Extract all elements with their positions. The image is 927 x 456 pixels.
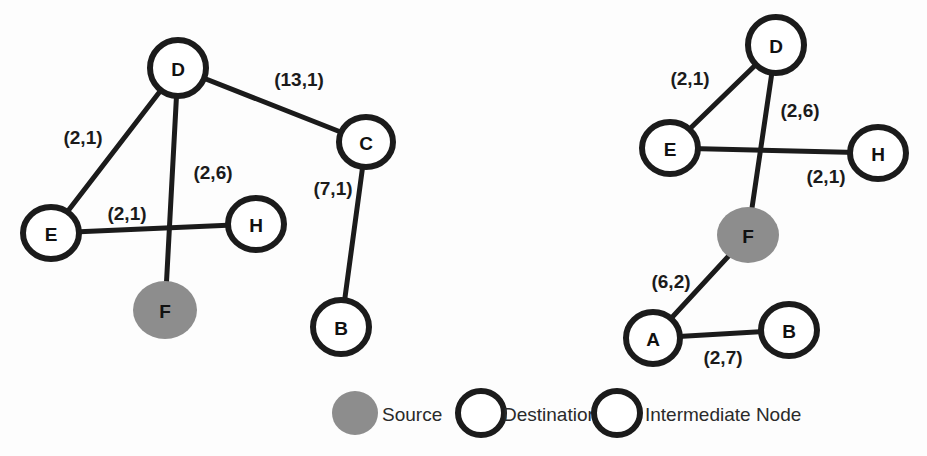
node-label: D [769, 36, 783, 57]
edge-weight-label: (6,2) [651, 271, 690, 292]
node-label: C [359, 133, 373, 154]
node-label: B [782, 321, 796, 342]
node-h-destination[interactable]: H [850, 127, 906, 179]
edge-r-e-r-h [670, 148, 878, 153]
edge-weight-label: (2,6) [780, 100, 819, 121]
legend-source-label: Source [382, 404, 442, 425]
node-f-source[interactable]: F [133, 281, 197, 339]
node-label: H [249, 215, 263, 236]
network-diagram-svg: DCEHFBDEHFAB (2,1)(13,1)(2,6)(2,1)(7,1)(… [0, 0, 927, 456]
legend-source: Source [332, 391, 442, 435]
legend-destination-label: Destination [503, 404, 598, 425]
node-c-intermediate[interactable]: C [339, 117, 393, 167]
node-label: A [646, 329, 660, 350]
node-label: H [871, 144, 885, 165]
nodes-layer: DCEHFBDEHFAB [23, 17, 906, 364]
legend-intermediate: Intermediate Node [594, 391, 801, 435]
edge-weight-label: (2,1) [670, 68, 709, 89]
legend-destination: Destination [458, 391, 598, 435]
node-a-intermediate[interactable]: A [626, 312, 680, 364]
legend-intermediate-label: Intermediate Node [645, 404, 801, 425]
edge-weight-label: (2,6) [193, 162, 232, 183]
node-label: F [159, 301, 171, 322]
node-label: F [742, 226, 754, 247]
node-e-destination[interactable]: E [642, 122, 698, 174]
node-label: E [664, 139, 677, 160]
node-label: B [334, 318, 348, 339]
edge-l-d-l-f [165, 68, 178, 310]
node-d-destination[interactable]: D [150, 40, 206, 96]
legend-intermediate-swatch-icon [594, 391, 640, 435]
node-d-destination[interactable]: D [748, 17, 804, 73]
node-label: D [171, 59, 185, 80]
node-b-destination[interactable]: B [313, 300, 369, 354]
node-label: E [45, 224, 58, 245]
node-b-destination[interactable]: B [761, 304, 817, 356]
node-h-destination[interactable]: H [228, 198, 284, 250]
edge-weight-label: (7,1) [313, 178, 352, 199]
edge-weight-label: (2,7) [703, 347, 742, 368]
legend-destination-swatch-icon [458, 391, 504, 435]
edge-weight-label: (2,1) [63, 127, 102, 148]
node-f-source[interactable]: F [717, 207, 779, 263]
diagram-canvas: DCEHFBDEHFAB (2,1)(13,1)(2,6)(2,1)(7,1)(… [0, 0, 927, 456]
node-e-destination[interactable]: E [23, 207, 79, 259]
edge-weight-label: (2,1) [806, 166, 845, 187]
edge-weight-label: (13,1) [274, 69, 324, 90]
edge-weight-label: (2,1) [107, 203, 146, 224]
legend-source-swatch-icon [332, 391, 378, 435]
legend-layer: SourceDestinationIntermediate Node [332, 391, 801, 435]
